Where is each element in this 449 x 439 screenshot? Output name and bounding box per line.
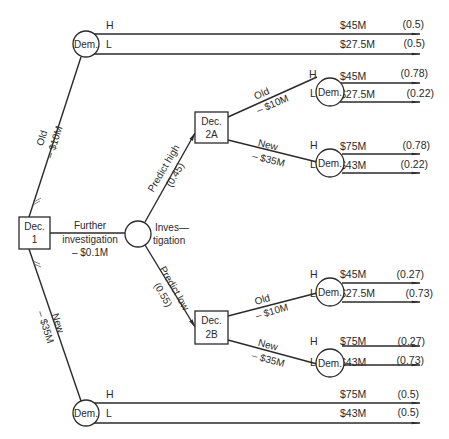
svg-text:H: H [309,68,317,80]
chance-node-demand-2a-new: Dem. [316,149,344,177]
svg-text:1: 1 [32,234,38,245]
svg-text:H: H [106,19,114,31]
branch-label-further-investigation: Further investigation – $0.1M [62,220,118,258]
decision-node-dec2b: Dec. 2B [195,311,228,344]
outcome-group-top: H L $45M $27.5M (0.5) (0.5) [93,18,425,54]
outcome-group-bottom: H L $75M $43M (0.5) (0.5) [93,388,420,423]
svg-text:– $35M: – $35M [251,350,286,369]
svg-text:L: L [310,158,316,170]
svg-text:Dec.: Dec. [201,315,222,326]
branch-label-dec2b-new: New – $35M [251,336,290,369]
chance-node-investigation: Inves— tigation [125,221,189,247]
svg-text:L: L [310,287,316,299]
chance-node-demand-2a-old: Dem. [316,78,344,106]
svg-text:$75M: $75M [340,140,366,152]
svg-text:$45M: $45M [340,70,366,82]
svg-text:(0.5): (0.5) [403,37,425,49]
chance-node-demand-bottom: Dem. [73,400,99,426]
svg-text:L: L [310,87,316,99]
svg-text:– $10M: – $10M [44,124,65,159]
decision-node-dec2a: Dec. 2A [195,112,228,143]
svg-text:H: H [310,268,318,280]
svg-text:2A: 2A [205,129,218,140]
svg-text:(0.27): (0.27) [398,335,425,347]
svg-text:New: New [257,137,280,153]
chance-node-demand-2b-new: Dem. [316,349,344,377]
svg-text:H: H [310,139,318,151]
svg-text:Dec.: Dec. [24,221,45,232]
chance-node-demand-top: Dem. [73,31,99,57]
svg-text:(0.22): (0.22) [401,158,428,170]
svg-text:(0.73): (0.73) [397,354,424,366]
svg-text:Dem.: Dem. [318,358,342,369]
svg-text:$75M: $75M [340,388,366,400]
svg-text:$27.5M: $27.5M [340,88,375,100]
svg-text:H: H [310,335,318,347]
svg-text:(0.5): (0.5) [402,18,424,30]
svg-text:Inves—: Inves— [155,222,189,233]
svg-text:investigation: investigation [62,234,118,245]
decision-node-dec1: Dec. 1 [19,217,50,249]
branch-label-predict-high: Predict high (0.45) [146,143,193,201]
svg-text:$43M: $43M [340,407,366,419]
svg-text:H: H [106,388,114,400]
branch-label-dec2a-new: New – $35M [251,136,289,168]
svg-text:Dem.: Dem. [318,158,342,169]
svg-text:(0.22): (0.22) [407,87,434,99]
svg-text:– $0.1M: – $0.1M [72,247,108,258]
svg-text:(0.73): (0.73) [406,287,433,299]
branch-label-dec1-new: New – $35M [35,305,68,344]
svg-text:tigation: tigation [153,235,185,246]
svg-text:Dem.: Dem. [318,287,342,298]
svg-text:$27.5M: $27.5M [340,287,375,299]
svg-text:Old: Old [253,292,271,307]
svg-text:Dem.: Dem. [74,39,98,50]
svg-text:(0.5): (0.5) [397,406,419,418]
svg-text:(0.5): (0.5) [397,388,419,400]
svg-text:Dem.: Dem. [318,87,342,98]
svg-text:2B: 2B [205,329,218,340]
chance-node-demand-2b-old: Dem. [316,278,344,306]
svg-text:(0.78): (0.78) [403,139,430,151]
svg-text:L: L [106,407,112,419]
svg-text:L: L [106,38,112,50]
svg-text:$45M: $45M [340,19,366,31]
svg-text:New: New [257,337,280,353]
svg-text:$45M: $45M [340,268,366,280]
branch-label-dec1-old: Old – $10M [31,120,64,159]
svg-text:(0.78): (0.78) [401,67,428,79]
svg-text:Dec.: Dec. [201,116,222,127]
svg-text:$27.5M: $27.5M [340,38,375,50]
svg-text:(0.27): (0.27) [397,268,424,280]
svg-text:Dem.: Dem. [74,408,98,419]
decision-tree-diagram: Old – $10M New – $35M Further investigat… [0,0,449,439]
svg-text:L: L [310,356,316,368]
svg-text:$75M: $75M [340,335,366,347]
svg-text:Further: Further [74,220,107,231]
